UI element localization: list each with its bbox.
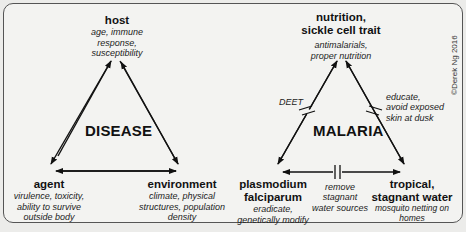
malaria-host-detail: proper nutrition (291, 51, 391, 61)
malaria-environment-title: tropical, (362, 178, 462, 191)
malaria-center-label: MALARIA (313, 122, 384, 139)
arrow-host-agent (51, 61, 111, 164)
malaria-environment-detail: mosquito netting on homes (362, 204, 462, 224)
malaria-host-node: nutrition, sickle cell trait antimalaria… (291, 11, 391, 61)
agent-detail: virulence, toxicity, (6, 191, 92, 201)
disease-center-label: DISEASE (85, 122, 152, 139)
malaria-agent-title: falciparum (235, 191, 311, 204)
malaria-host-title: sickle cell trait (291, 24, 391, 37)
arrow-environment-host (121, 62, 178, 164)
environment-detail: structures, population (132, 202, 232, 212)
environment-detail: density (132, 212, 232, 222)
agent-detail: outside body (6, 212, 92, 222)
intervention-line: avoid exposed (386, 102, 444, 112)
host-detail: age, immune (72, 27, 162, 37)
disease-agent-node: agent virulence, toxicity, ability to su… (6, 178, 92, 222)
malaria-agent-title: plasmodium (235, 178, 311, 191)
remove-water-intervention: remove stagnant water sources (310, 182, 370, 213)
deet-intervention: DEET (279, 97, 303, 107)
copyright-text: ©Derek Ng 2016 (450, 35, 459, 95)
environment-title: environment (132, 178, 232, 191)
malaria-host-detail: antimalarials, (291, 40, 391, 50)
intervention-line: remove stagnant (310, 182, 370, 203)
malaria-environment-node: tropical, stagnant water mosquito nettin… (362, 178, 462, 224)
malaria-agent-detail: genetically modify (235, 215, 311, 225)
intervention-line: educate, (386, 92, 444, 102)
agent-detail: ability to survive (6, 202, 92, 212)
host-title: host (72, 14, 162, 27)
intervention-line: skin at dusk (386, 113, 444, 123)
educate-intervention: educate, avoid exposed skin at dusk (386, 92, 444, 123)
host-detail: susceptibility (72, 48, 162, 58)
malaria-agent-node: plasmodium falciparum eradicate, genetic… (235, 178, 311, 225)
disease-host-node: host age, immune response, susceptibilit… (72, 14, 162, 58)
malaria-host-title: nutrition, (291, 11, 391, 24)
intervention-line: water sources (310, 203, 370, 213)
environment-detail: climate, physical (132, 191, 232, 201)
agent-title: agent (6, 178, 92, 191)
disease-environment-node: environment climate, physical structures… (132, 178, 232, 222)
malaria-agent-detail: eradicate, (235, 204, 311, 214)
host-detail: response, (72, 38, 162, 48)
